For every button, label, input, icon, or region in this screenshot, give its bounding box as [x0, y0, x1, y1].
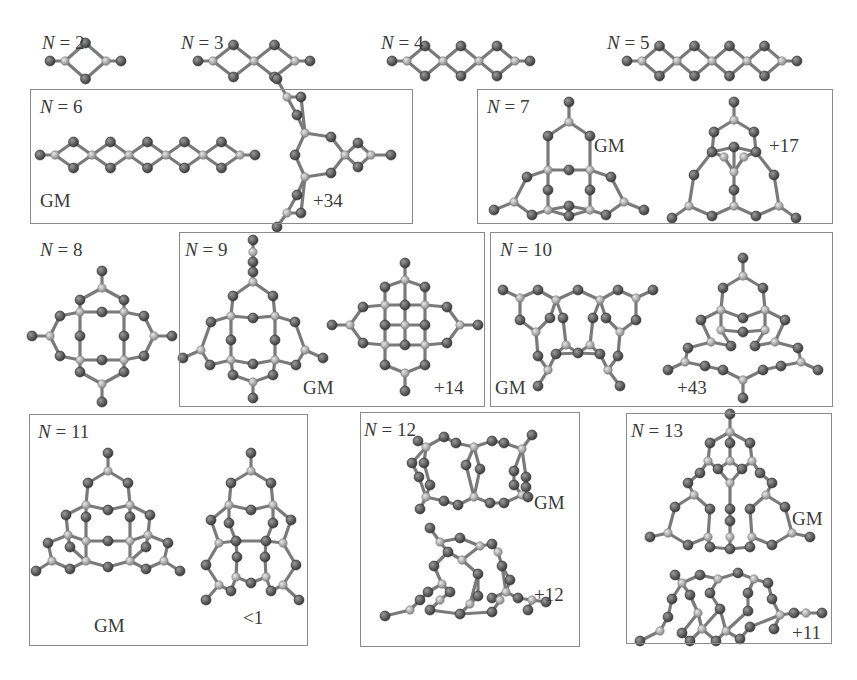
- n-value: = 12: [377, 419, 416, 440]
- panel-label-n8: N = 8: [40, 240, 82, 259]
- n-symbol: N: [487, 96, 500, 117]
- panel-label-n11: N = 11: [38, 422, 89, 441]
- energy-annotation-n7-0: GM: [594, 136, 625, 155]
- energy-annotation-n6-1: +34: [313, 191, 343, 210]
- n-symbol: N: [42, 32, 55, 53]
- energy-annotation-n6-0: GM: [40, 191, 71, 210]
- n-symbol: N: [607, 32, 620, 53]
- panel-label-n13: N = 13: [631, 421, 683, 440]
- n-symbol: N: [364, 419, 377, 440]
- energy-annotation-n13-1: +11: [792, 623, 821, 642]
- n-symbol: N: [40, 96, 53, 117]
- n-value: = 13: [644, 420, 683, 441]
- energy-annotation-n9-1: +14: [434, 378, 464, 397]
- n-value: = 10: [513, 239, 552, 260]
- n-symbol: N: [381, 32, 394, 53]
- n-symbol: N: [181, 32, 194, 53]
- n-symbol: N: [38, 421, 51, 442]
- n-value: = 2: [55, 32, 85, 53]
- panel-box-n6: [30, 89, 413, 224]
- panel-label-n3: N = 3: [181, 33, 223, 52]
- panel-box-n7: [477, 89, 833, 224]
- panel-box-n11: [29, 414, 308, 646]
- panel-label-n5: N = 5: [607, 33, 649, 52]
- n-value: = 7: [500, 96, 530, 117]
- panel-label-n9: N = 9: [185, 240, 227, 259]
- panel-label-n7: N = 7: [487, 97, 529, 116]
- panel-label-n4: N = 4: [381, 33, 423, 52]
- energy-annotation-n7-1: +17: [769, 136, 799, 155]
- panel-box-n12: [360, 412, 580, 647]
- panel-label-n10: N = 10: [500, 240, 552, 259]
- energy-annotation-n13-0: GM: [792, 509, 823, 528]
- figure-canvas: N = 2N = 3N = 4N = 5N = 6GM+34N = 7GM+17…: [0, 0, 857, 680]
- n-symbol: N: [631, 420, 644, 441]
- energy-annotation-n12-1: +12: [534, 585, 564, 604]
- panel-label-n2: N = 2: [42, 33, 84, 52]
- n-symbol: N: [500, 239, 513, 260]
- panel-label-n6: N = 6: [40, 97, 82, 116]
- n-value: = 6: [53, 96, 83, 117]
- n-symbol: N: [40, 239, 53, 260]
- n-symbol: N: [185, 239, 198, 260]
- n-value: = 11: [51, 421, 90, 442]
- n-value: = 8: [53, 239, 83, 260]
- panel-label-n12: N = 12: [364, 420, 416, 439]
- energy-annotation-n12-0: GM: [534, 493, 565, 512]
- n-value: = 9: [198, 239, 228, 260]
- n-value: = 5: [620, 32, 650, 53]
- n-value: = 4: [394, 32, 424, 53]
- energy-annotation-n11-0: GM: [94, 616, 125, 635]
- energy-annotation-n10-0: GM: [495, 378, 526, 397]
- energy-annotation-n10-1: +43: [677, 378, 707, 397]
- energy-annotation-n11-1: <1: [243, 608, 263, 627]
- n-value: = 3: [194, 32, 224, 53]
- energy-annotation-n9-0: GM: [303, 378, 334, 397]
